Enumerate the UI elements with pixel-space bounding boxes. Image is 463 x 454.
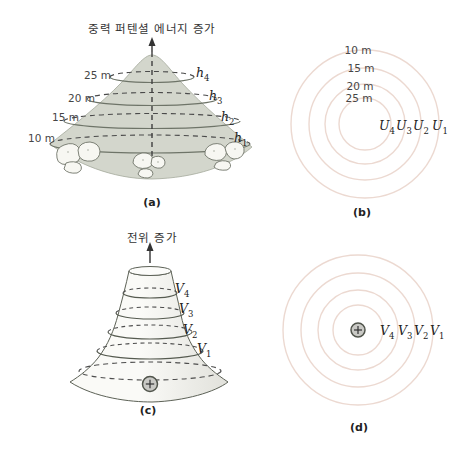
contour-label-15m: 15 m <box>52 111 79 123</box>
positive-charge-icon <box>143 377 158 392</box>
potential-axis-arrow <box>147 242 154 263</box>
funnel-top-rim <box>129 267 171 276</box>
equipotential-label-v2: V2 <box>414 323 428 338</box>
height-label-h2: h2 <box>221 109 234 124</box>
equipotential-label-v3: V3 <box>398 323 412 338</box>
figure-graphics <box>0 0 463 454</box>
potential-label-v4: V4 <box>175 281 189 296</box>
energy-label-u3: U3 <box>396 118 412 133</box>
contour-label-20m: 20 m <box>68 92 95 104</box>
gravity-axis-label: 중력 퍼텐셜 에너지 증가 <box>88 20 215 36</box>
height-label-h4: h4 <box>196 65 209 80</box>
caption-a: (a) <box>143 196 160 209</box>
figure-potential-analogy: 중력 퍼텐셜 에너지 증가 25 m 20 m 15 m 10 m h4 h3 … <box>0 0 463 454</box>
caption-d: (d) <box>350 421 368 434</box>
ring-label-25m: 25 m <box>346 92 373 104</box>
potential-funnel <box>70 242 228 402</box>
contour-label-10m: 10 m <box>28 132 55 144</box>
potential-label-v2: V2 <box>183 322 197 337</box>
caption-c: (c) <box>140 404 157 417</box>
potential-label-v3: V3 <box>179 301 193 316</box>
ring-label-20m: 20 m <box>347 80 374 92</box>
electric-potential-axis-label: 전위 증가 <box>127 229 177 245</box>
energy-label-u4: U4 <box>379 118 395 133</box>
ring-label-15m: 15 m <box>348 62 375 74</box>
energy-label-u2: U2 <box>413 118 429 133</box>
equipotential-label-v4: V4 <box>380 323 394 338</box>
contour-label-25m: 25 m <box>84 69 111 81</box>
equipotential-label-v1: V1 <box>430 323 444 338</box>
positive-charge-icon <box>351 323 365 337</box>
caption-b: (b) <box>353 206 371 219</box>
height-label-h1: h1 <box>234 130 247 145</box>
height-label-h3: h3 <box>209 88 222 103</box>
potential-label-v1: V1 <box>197 341 211 356</box>
energy-label-u1: U1 <box>432 118 448 133</box>
hill-diagram <box>50 37 252 179</box>
ring-label-10m: 10 m <box>345 44 372 56</box>
